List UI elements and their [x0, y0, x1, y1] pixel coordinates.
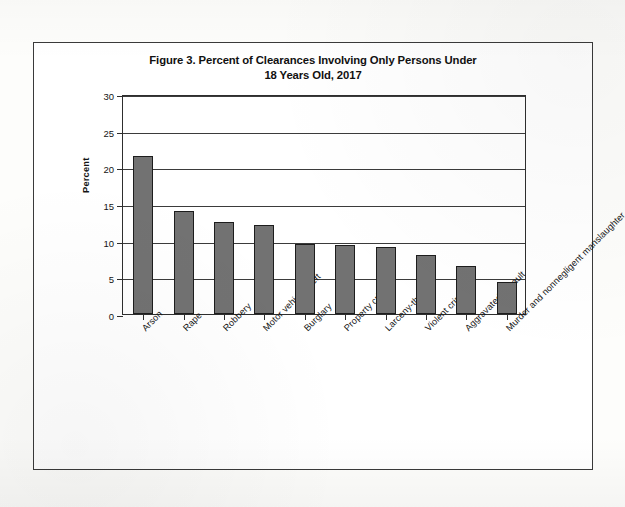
y-axis-tick-label: 25	[103, 127, 114, 138]
x-axis-tick	[184, 314, 185, 320]
bar	[214, 222, 234, 314]
x-axis-tick	[224, 314, 225, 320]
y-axis-tick	[117, 169, 123, 170]
x-axis-tick	[143, 314, 144, 320]
chart-title-line-2: 18 Years Old, 2017	[34, 68, 592, 83]
bar	[133, 156, 153, 314]
y-axis-tick-label: 30	[103, 91, 114, 102]
bar	[376, 247, 396, 314]
bar	[254, 225, 274, 314]
gridline	[123, 206, 525, 207]
y-axis-tick-label: 5	[109, 274, 114, 285]
figure-frame: Figure 3. Percent of Clearances Involvin…	[33, 42, 593, 470]
bar	[295, 244, 315, 314]
chart-title: Figure 3. Percent of Clearances Involvin…	[34, 53, 592, 83]
x-axis-tick	[426, 314, 427, 320]
x-axis-tick	[345, 314, 346, 320]
y-axis-tick-label: 10	[103, 237, 114, 248]
gridline	[123, 133, 525, 134]
bar	[456, 266, 476, 314]
y-axis-tick	[117, 243, 123, 244]
y-axis-tick	[117, 316, 123, 317]
bar	[174, 211, 194, 314]
chart-title-line-1: Figure 3. Percent of Clearances Involvin…	[149, 54, 476, 66]
y-axis-tick	[117, 279, 123, 280]
x-axis-tick	[386, 314, 387, 320]
y-axis-tick-label: 20	[103, 164, 114, 175]
y-axis-tick-label: 0	[109, 311, 114, 322]
bar	[416, 255, 436, 314]
y-axis-tick	[117, 133, 123, 134]
scanned-page: Figure 3. Percent of Clearances Involvin…	[0, 0, 625, 507]
x-axis-tick	[466, 314, 467, 320]
y-axis-title: Percent	[81, 157, 91, 193]
gridline	[123, 169, 525, 170]
gridline	[123, 96, 525, 97]
x-axis-tick	[507, 314, 508, 320]
y-axis-tick-label: 15	[103, 201, 114, 212]
plot-area: 051015202530ArsonRapeRobberyMotor vehicl…	[122, 95, 526, 315]
x-axis-tick	[305, 314, 306, 320]
bar	[497, 282, 517, 314]
x-axis-tick	[264, 314, 265, 320]
y-axis-tick	[117, 206, 123, 207]
y-axis-tick	[117, 96, 123, 97]
bar	[335, 245, 355, 314]
